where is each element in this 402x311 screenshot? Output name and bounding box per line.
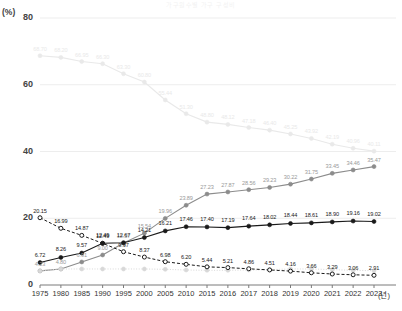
data-point[interactable]: [38, 216, 42, 220]
data-point[interactable]: [80, 267, 84, 271]
value-label-rise-series: 33.45: [326, 163, 340, 169]
data-point[interactable]: [163, 260, 167, 264]
data-point[interactable]: [268, 223, 272, 227]
data-point[interactable]: [289, 182, 293, 186]
data-point[interactable]: [80, 233, 84, 237]
data-point[interactable]: [59, 55, 63, 59]
data-point[interactable]: [289, 221, 293, 225]
value-label-rise-series: 4.80: [56, 259, 67, 265]
value-label-solid-series: 18.02: [263, 214, 277, 220]
data-point[interactable]: [309, 271, 313, 275]
data-point[interactable]: [80, 60, 84, 64]
value-label-top-series: 55.44: [159, 90, 173, 96]
value-label-solid-series: 17.64: [242, 215, 256, 221]
data-point[interactable]: [268, 128, 272, 132]
value-label-dash-series: 6.20: [181, 254, 192, 260]
value-label-solid-series: 18.44: [284, 212, 298, 218]
value-label-top-series: 66.30: [96, 54, 110, 60]
data-point[interactable]: [205, 192, 209, 196]
data-point[interactable]: [184, 262, 188, 266]
data-point[interactable]: [205, 120, 209, 124]
data-point[interactable]: [184, 112, 188, 116]
data-point[interactable]: [351, 146, 355, 150]
data-point[interactable]: [122, 72, 126, 76]
data-point[interactable]: [142, 236, 146, 240]
data-point[interactable]: [163, 229, 167, 233]
data-point[interactable]: [59, 226, 63, 230]
value-label-top-series: 43.92: [305, 128, 319, 134]
data-point[interactable]: [184, 268, 188, 272]
data-point[interactable]: [247, 267, 251, 271]
value-label-dash-series: 14.87: [75, 225, 89, 231]
value-label-dash-series: 3.66: [306, 263, 317, 269]
data-point[interactable]: [247, 126, 251, 130]
value-label-solid-series: 17.40: [200, 216, 214, 222]
value-label-rise-series: 31.75: [305, 169, 319, 175]
data-point[interactable]: [247, 188, 251, 192]
data-point[interactable]: [122, 250, 126, 254]
series-line-0: [40, 56, 374, 151]
data-point[interactable]: [142, 255, 146, 259]
data-point[interactable]: [372, 149, 376, 153]
value-label-rise-series: 30.22: [284, 174, 298, 180]
data-point[interactable]: [38, 54, 42, 58]
data-point[interactable]: [351, 273, 355, 277]
data-point[interactable]: [372, 165, 376, 169]
value-label-rise-series: 9.00: [97, 245, 108, 251]
data-point[interactable]: [268, 268, 272, 272]
data-point[interactable]: [38, 269, 42, 273]
data-point[interactable]: [163, 98, 167, 102]
data-point[interactable]: [226, 122, 230, 126]
data-point[interactable]: [101, 253, 105, 257]
data-point[interactable]: [226, 190, 230, 194]
chart-container: 가구원수별 가구 구성비 (%) 806040200 1975198019851…: [0, 0, 402, 311]
data-point[interactable]: [330, 272, 334, 276]
value-label-dash-series: 16.99: [54, 218, 68, 224]
data-point[interactable]: [226, 266, 230, 270]
data-point[interactable]: [122, 267, 126, 271]
data-point[interactable]: [372, 220, 376, 224]
value-label-rise-series: 28.56: [242, 180, 256, 186]
value-label-rise-series: 29.23: [263, 177, 277, 183]
value-label-top-series: 46.40: [263, 120, 277, 126]
data-point[interactable]: [226, 226, 230, 230]
data-point[interactable]: [101, 62, 105, 66]
data-point[interactable]: [351, 168, 355, 172]
value-label-top-series: 68.20: [54, 47, 68, 53]
value-label-dash-series: 8.37: [139, 247, 150, 253]
data-point[interactable]: [142, 267, 146, 271]
data-point[interactable]: [330, 171, 334, 175]
data-point[interactable]: [184, 203, 188, 207]
data-point[interactable]: [59, 267, 63, 271]
data-point[interactable]: [330, 142, 334, 146]
value-label-dash-series: 4.51: [264, 260, 275, 266]
data-point[interactable]: [372, 273, 376, 277]
data-point[interactable]: [268, 185, 272, 189]
data-point[interactable]: [142, 80, 146, 84]
data-point[interactable]: [184, 225, 188, 229]
value-label-solid-series: 6.72: [35, 252, 46, 258]
value-label-rise-series: 23.89: [179, 195, 193, 201]
value-label-rise-series: 35.47: [367, 157, 381, 163]
data-point[interactable]: [247, 224, 251, 228]
value-label-solid-series: 14.21: [138, 227, 152, 233]
value-label-solid-series: 16.21: [159, 220, 173, 226]
value-label-dash-series: 5.44: [202, 257, 213, 263]
data-point[interactable]: [351, 219, 355, 223]
value-label-top-series: 68.70: [33, 46, 47, 52]
value-label-top-series: 42.19: [326, 134, 340, 140]
data-point[interactable]: [289, 132, 293, 136]
value-label-dash-series: 3.06: [348, 265, 359, 271]
data-point[interactable]: [80, 260, 84, 264]
data-point[interactable]: [163, 267, 167, 271]
value-label-top-series: 40.96: [346, 138, 360, 144]
data-point[interactable]: [101, 267, 105, 271]
data-point[interactable]: [309, 221, 313, 225]
value-label-rise-series: 34.46: [346, 160, 360, 166]
data-point[interactable]: [205, 225, 209, 229]
data-point[interactable]: [205, 265, 209, 269]
data-point[interactable]: [330, 220, 334, 224]
data-point[interactable]: [309, 177, 313, 181]
data-point[interactable]: [309, 136, 313, 140]
data-point[interactable]: [289, 269, 293, 273]
